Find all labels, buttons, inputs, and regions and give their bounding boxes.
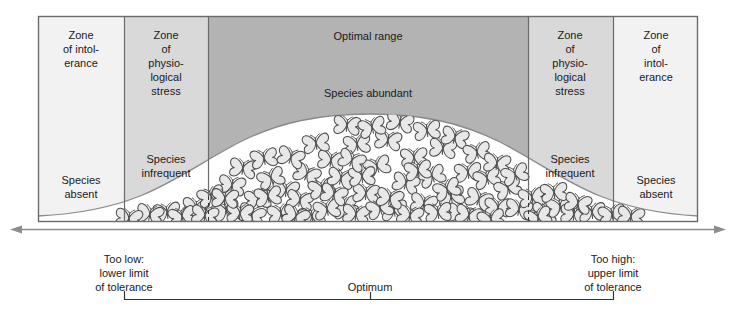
text-line: stress xyxy=(151,85,181,97)
text-line: Zone xyxy=(643,29,668,41)
text-line: lower limit xyxy=(100,267,149,279)
text-line: of tolerance xyxy=(95,281,152,293)
text-line: Species xyxy=(61,174,101,186)
text-line: physio- xyxy=(148,57,184,69)
text-line: stress xyxy=(555,85,585,97)
text-line: Zone xyxy=(68,29,93,41)
text-line: infrequent xyxy=(142,167,191,179)
text-line: Zone xyxy=(153,29,178,41)
zone-optimal-bottom-label: Species abundant xyxy=(324,87,412,99)
text-line: logical xyxy=(554,71,585,83)
zone-optimal-top-label: Optimal range xyxy=(333,30,402,42)
text-line: logical xyxy=(150,71,181,83)
text-line: Zone xyxy=(557,29,582,41)
text-line: absent xyxy=(639,188,672,200)
callout-upper-limit: Too high: upper limit of tolerance xyxy=(584,253,641,293)
text-line: intol- xyxy=(644,57,668,69)
text-line: erance xyxy=(64,57,98,69)
gradient-axis xyxy=(10,226,726,234)
text-line: erance xyxy=(639,71,673,83)
text-line: Species xyxy=(146,153,186,165)
text-line: Too high: xyxy=(591,253,636,265)
callout-optimum: Optimum xyxy=(348,281,393,293)
text-line: of xyxy=(161,43,171,55)
diagram-canvas: Zone of intol- erance Species absent Zon… xyxy=(0,0,740,322)
text-line: Species xyxy=(550,153,590,165)
text-line: of xyxy=(565,43,575,55)
text-line: absent xyxy=(64,188,97,200)
text-line: of tolerance xyxy=(584,281,641,293)
text-line: Too low: xyxy=(104,253,144,265)
text-line: Species xyxy=(636,174,676,186)
axis-arrow-right-icon xyxy=(714,226,726,234)
callout-lower-limit: Too low: lower limit of tolerance xyxy=(95,253,152,293)
axis-arrow-left-icon xyxy=(10,226,22,234)
tolerance-diagram-svg: Zone of intol- erance Species absent Zon… xyxy=(0,0,740,322)
text-line: of intol- xyxy=(63,43,99,55)
text-line: infrequent xyxy=(546,167,595,179)
text-line: of xyxy=(651,43,661,55)
text-line: upper limit xyxy=(588,267,639,279)
text-line: physio- xyxy=(552,57,588,69)
